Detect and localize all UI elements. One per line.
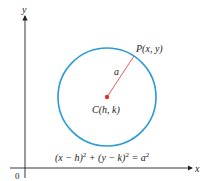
center-label: C(h, k) [92,104,120,116]
circle-diagram: y x 0 P(x, y) a C(h, k) (x − h)2 + (y − … [0,0,205,181]
x-axis-label: x [194,163,200,174]
circle-equation: (x − h)2 + (y − k)2 = a2 [55,151,150,164]
radius-label: a [114,66,119,77]
y-axis-label: y [21,4,27,15]
center-point [105,95,109,99]
radius-line [107,56,134,97]
point-label: P(x, y) [135,43,163,55]
origin-label: 0 [15,171,20,181]
